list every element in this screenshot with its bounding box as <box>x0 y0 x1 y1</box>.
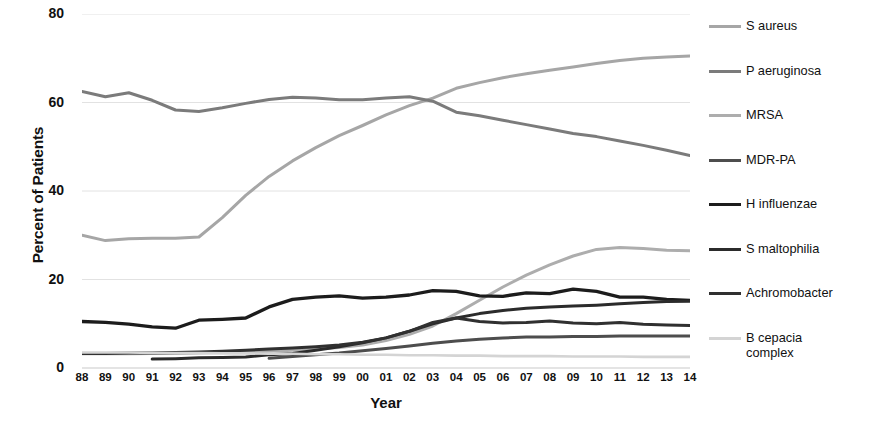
legend-item[interactable]: H influenzae <box>709 196 817 211</box>
x-axis-tick-label: 91 <box>139 371 165 383</box>
x-axis-tick-label: 06 <box>490 371 516 383</box>
legend-item-label: S aureus <box>746 18 797 33</box>
legend-swatch-line-icon <box>709 292 741 295</box>
legend-item-label: B cepacia complex <box>746 330 802 360</box>
legend-item[interactable]: S maltophilia <box>709 241 819 256</box>
legend-item[interactable]: MDR-PA <box>709 152 796 167</box>
x-axis-tick-label: 04 <box>443 371 469 383</box>
x-axis-tick-label: 96 <box>256 371 282 383</box>
x-axis-tick-label: 94 <box>209 371 235 383</box>
x-axis-tick-label: 97 <box>279 371 305 383</box>
y-axis-tick-label: 40 <box>22 182 64 198</box>
x-axis-tick-label: 02 <box>396 371 422 383</box>
legend-item-label: Achromobacter <box>746 285 833 300</box>
legend-item-label: S maltophilia <box>746 241 819 256</box>
x-axis-tick-label: 12 <box>630 371 656 383</box>
x-axis-tick-label: 88 <box>69 371 95 383</box>
x-axis-tick-label: 92 <box>163 371 189 383</box>
legend-item[interactable]: P aeruginosa <box>709 63 821 78</box>
x-axis-tick-label: 07 <box>513 371 539 383</box>
legend-swatch-line-icon <box>709 70 741 73</box>
x-axis-tick-label: 95 <box>233 371 259 383</box>
y-axis-tick-label: 20 <box>22 271 64 287</box>
legend-swatch-line-icon <box>709 337 741 340</box>
legend-item-label: MRSA <box>746 107 783 122</box>
legend-item[interactable]: Achromobacter <box>709 285 833 300</box>
y-axis-tick-label: 0 <box>22 359 64 375</box>
x-axis-tick-label: 93 <box>186 371 212 383</box>
x-axis-tick-label: 99 <box>326 371 352 383</box>
legend-swatch-line-icon <box>709 203 741 206</box>
x-axis-tick-label: 98 <box>303 371 329 383</box>
legend-swatch-line-icon <box>709 25 741 28</box>
legend-swatch-line-icon <box>709 159 741 162</box>
x-axis-tick-label: 11 <box>607 371 633 383</box>
series-line <box>82 56 690 241</box>
legend-item[interactable]: B cepacia complex <box>709 330 802 360</box>
x-axis-tick-label: 14 <box>677 371 703 383</box>
legend-item-label: MDR-PA <box>746 152 796 167</box>
legend-item[interactable]: S aureus <box>709 18 797 33</box>
x-axis-tick-label: 00 <box>350 371 376 383</box>
plot-area <box>82 14 690 368</box>
x-axis-tick-label: 13 <box>654 371 680 383</box>
x-axis-tick-label: 08 <box>537 371 563 383</box>
x-axis-tick-label: 05 <box>467 371 493 383</box>
x-axis-tick-label: 10 <box>583 371 609 383</box>
x-axis-tick-label: 09 <box>560 371 586 383</box>
legend-swatch-line-icon <box>709 114 741 117</box>
legend-item-label: H influenzae <box>746 196 817 211</box>
chart-svg <box>82 14 690 370</box>
x-axis-tick-label: 01 <box>373 371 399 383</box>
series-line <box>82 91 690 155</box>
x-axis-tick-label: 89 <box>92 371 118 383</box>
chart-root: Percent of Patients 020406080 8889909192… <box>0 0 879 433</box>
legend-item[interactable]: MRSA <box>709 107 783 122</box>
y-axis-tick-label: 80 <box>22 5 64 21</box>
legend-swatch-line-icon <box>709 248 741 251</box>
x-axis-tick-label: 90 <box>116 371 142 383</box>
x-axis-tick-label: 03 <box>420 371 446 383</box>
y-axis-tick-label: 60 <box>22 94 64 110</box>
x-axis-title: Year <box>82 394 690 411</box>
legend-item-label: P aeruginosa <box>746 63 821 78</box>
